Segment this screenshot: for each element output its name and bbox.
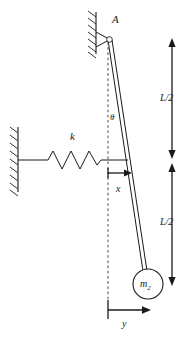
physics-diagram-canvas: A θ k x y L/2 L/2 m2 bbox=[0, 0, 195, 343]
rod-left-edge bbox=[108, 40, 143, 271]
left-wall-hatch-5 bbox=[10, 159, 18, 165]
length-lower-head-bottom bbox=[168, 277, 175, 286]
ceiling-hatch-6 bbox=[88, 46, 96, 52]
ceiling-hatch-1 bbox=[88, 11, 96, 17]
length-upper-head-bottom bbox=[168, 150, 175, 159]
left-wall-support-group bbox=[10, 127, 18, 196]
label-spring-constant-k: k bbox=[70, 131, 75, 142]
label-angle-theta: θ bbox=[110, 113, 114, 122]
length-upper-head-top bbox=[168, 38, 175, 47]
ceiling-hatch-7 bbox=[88, 52, 96, 58]
label-displacement-y: y bbox=[122, 319, 126, 329]
spring-zigzag bbox=[48, 151, 101, 169]
left-wall-hatch-7 bbox=[10, 175, 18, 181]
left-wall-hatch-9 bbox=[10, 190, 18, 196]
label-length-lower: L/2 bbox=[160, 217, 173, 227]
label-length-upper: L/2 bbox=[160, 93, 173, 103]
left-wall-hatch-2 bbox=[10, 135, 18, 141]
y-arrow-group bbox=[108, 306, 151, 314]
ceiling-hatch-2 bbox=[88, 18, 96, 24]
label-bob-mass: m2 bbox=[140, 279, 151, 292]
diagram-vector-layer bbox=[0, 0, 195, 343]
ceiling-hatch-5 bbox=[88, 39, 96, 45]
length-lower-head-top bbox=[168, 163, 175, 172]
left-wall-hatch-4 bbox=[10, 151, 18, 157]
label-bob-mass-subscript: 2 bbox=[147, 284, 151, 292]
coil-spring-group bbox=[18, 151, 128, 169]
left-wall-hatch-3 bbox=[10, 143, 18, 149]
left-wall-hatch-1 bbox=[10, 127, 18, 133]
y-arrow-head bbox=[142, 306, 151, 314]
ceiling-hatch-4 bbox=[88, 32, 96, 38]
label-displacement-x: x bbox=[116, 184, 120, 194]
rod-right-edge bbox=[112, 40, 147, 271]
ceiling-support-group bbox=[88, 11, 109, 58]
left-wall-hatch-8 bbox=[10, 183, 18, 189]
label-pivot-A: A bbox=[112, 14, 119, 25]
ceiling-hatch-3 bbox=[88, 25, 96, 31]
pendulum-rod-group bbox=[108, 40, 147, 271]
left-wall-hatch-6 bbox=[10, 167, 18, 173]
pivot-joint-icon bbox=[107, 37, 113, 43]
